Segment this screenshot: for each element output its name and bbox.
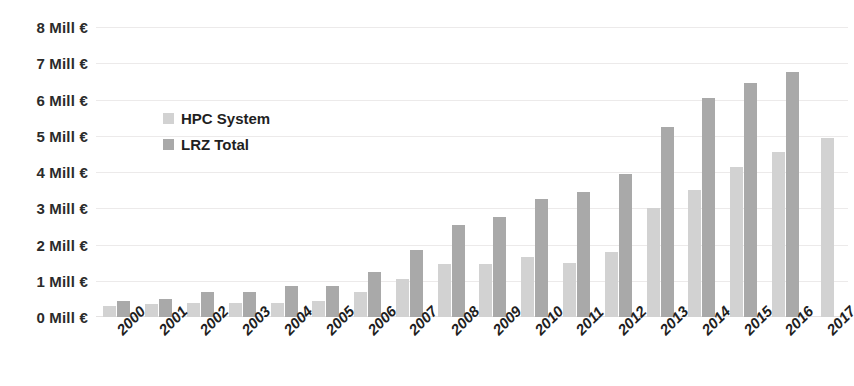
bar-group [430,27,472,317]
legend-label: LRZ Total [181,136,249,153]
bar-group [806,27,848,317]
bar-group [681,27,723,317]
bar-group [639,27,681,317]
bar-group [597,27,639,317]
bar-lrz-total[interactable] [661,127,674,317]
bar-group [138,27,180,317]
x-axis-tick: 2002 [180,318,222,386]
bar-group [556,27,598,317]
bar-group [180,27,222,317]
bar-hpc-system[interactable] [647,208,660,317]
x-axis-tick: 2007 [388,318,430,386]
x-axis-tick: 2015 [723,318,765,386]
x-axis-tick: 2014 [681,318,723,386]
bar-group [347,27,389,317]
bar-lrz-total[interactable] [577,192,590,317]
bar-lrz-total[interactable] [493,217,506,317]
bar-hpc-system[interactable] [563,263,576,317]
bar-group [514,27,556,317]
x-axis-tick: 2003 [221,318,263,386]
bar-group [723,27,765,317]
y-axis-tick-label: 8 Mill € [36,19,88,36]
legend-item[interactable]: HPC System [163,105,270,131]
y-axis-tick-label: 4 Mill € [36,164,88,181]
bar-lrz-total[interactable] [786,72,799,317]
bar-hpc-system[interactable] [605,252,618,317]
x-axis-tick: 2004 [263,318,305,386]
bar-group [388,27,430,317]
plot-area [96,27,848,317]
bar-group [765,27,807,317]
bar-lrz-total[interactable] [535,199,548,317]
bar-group [96,27,138,317]
bar-groups [96,27,848,317]
x-axis-tick: 2013 [639,318,681,386]
bar-hpc-system[interactable] [688,190,701,317]
bar-lrz-total[interactable] [702,98,715,317]
y-axis: 8 Mill €7 Mill €6 Mill €5 Mill €4 Mill €… [0,0,96,386]
legend-label: HPC System [181,110,270,127]
x-axis-tick: 2017 [806,318,848,386]
bar-group [472,27,514,317]
bar-lrz-total[interactable] [744,83,757,317]
legend-swatch-icon [163,139,174,150]
bar-hpc-system[interactable] [772,152,785,317]
chart-legend: HPC SystemLRZ Total [163,105,270,157]
bar-group [221,27,263,317]
x-axis-tick: 2005 [305,318,347,386]
bar-group [263,27,305,317]
x-axis-tick: 2010 [514,318,556,386]
x-axis-tick: 2008 [430,318,472,386]
y-axis-tick-label: 5 Mill € [36,127,88,144]
bar-hpc-system[interactable] [521,257,534,317]
x-axis-tick: 2016 [765,318,807,386]
bar-lrz-total[interactable] [619,174,632,317]
y-axis-tick-label: 0 Mill € [36,309,88,326]
x-axis-tick: 2006 [347,318,389,386]
bar-hpc-system[interactable] [821,138,834,317]
bar-lrz-total[interactable] [410,250,423,317]
bar-hpc-system[interactable] [396,279,409,317]
bar-group [305,27,347,317]
bar-hpc-system[interactable] [730,167,743,317]
bar-hpc-system[interactable] [438,264,451,317]
y-axis-tick-label: 3 Mill € [36,200,88,217]
bar-hpc-system[interactable] [103,306,116,317]
x-axis-tick: 2012 [597,318,639,386]
y-axis-tick-label: 6 Mill € [36,91,88,108]
x-axis-tick: 2011 [556,318,598,386]
x-axis-tick: 2009 [472,318,514,386]
bar-hpc-system[interactable] [479,264,492,317]
legend-swatch-icon [163,113,174,124]
x-axis-tick: 2000 [96,318,138,386]
bar-chart: 8 Mill €7 Mill €6 Mill €5 Mill €4 Mill €… [0,0,854,386]
y-axis-tick-label: 2 Mill € [36,236,88,253]
y-axis-tick-label: 1 Mill € [36,272,88,289]
x-axis: 2000200120022003200420052006200720082009… [96,318,848,386]
bar-lrz-total[interactable] [452,225,465,317]
y-axis-tick-label: 7 Mill € [36,55,88,72]
legend-item[interactable]: LRZ Total [163,131,270,157]
x-axis-tick: 2001 [138,318,180,386]
